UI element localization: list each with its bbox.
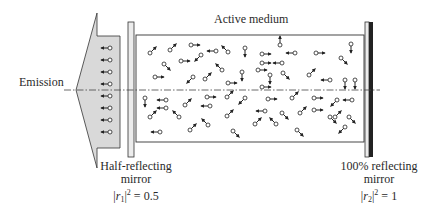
atom-circle [179,59,183,63]
mirror-glass [365,22,369,157]
atom-circle [214,49,218,53]
atom-circle [353,78,357,82]
atom-circle [164,98,168,102]
atom-circle [108,70,112,74]
atom-circle [263,109,267,113]
atom-circle [343,78,347,82]
right-mirror-caption: 100% reflecting mirror |r2|2 = 1 [338,160,420,206]
atom-circle [349,42,353,46]
left-mirror-reflectance: |r1|2 = 0.5 [100,186,172,206]
half-reflecting-mirror [128,22,134,157]
atom-circle [108,58,112,62]
atom-circle [312,108,316,112]
atom-circle [108,106,112,110]
atom-circle [108,118,112,122]
atom-circle [189,43,193,47]
atom-circle [256,68,260,72]
right-eq-sub: 2 [368,195,372,204]
left-eq-value: 0.5 [144,189,159,203]
atom-circle [260,85,264,89]
atom-circle [164,106,168,110]
atom-circle [278,43,282,47]
atom-circle [143,96,147,100]
atom-circle [260,61,264,65]
mirror-backing [369,22,373,157]
atom-circle [108,130,112,134]
right-eq-value: 1 [391,189,397,203]
emission-arrow-shape [76,13,120,168]
full-reflecting-mirror [365,22,373,157]
atom-circle [328,78,332,82]
active-medium-label: Active medium [214,13,288,26]
atom-circle [243,46,247,50]
atom-circle [266,97,270,101]
atom-circle [108,46,112,50]
atom-circle [268,73,272,77]
atom-circle [293,51,297,55]
atom-circle [260,52,264,56]
atom-circle [312,96,316,100]
left-mirror-caption: Half-reflecting mirror |r1|2 = 0.5 [100,160,172,206]
atom-circle [108,94,112,98]
left-eq-sub: 1 [120,195,124,204]
atom-circle [205,95,209,99]
atom-circle [208,104,212,108]
atom-circle [240,70,244,74]
atom-circle [314,51,318,55]
atom-circle [226,81,230,85]
left-eq-sup: 2 [127,188,131,197]
left-mirror-caption-line2: mirror [100,173,172,186]
atom-circle [108,82,112,86]
atom-circle [158,130,162,134]
right-mirror-reflectance: |r2|2 = 1 [338,186,420,206]
emission-label: Emission [19,76,64,89]
atom-circle [280,61,284,65]
right-mirror-caption-line2: mirror [338,173,420,186]
atom-circle [350,98,354,102]
right-eq-sup: 2 [374,188,378,197]
atom-circle [153,75,157,79]
